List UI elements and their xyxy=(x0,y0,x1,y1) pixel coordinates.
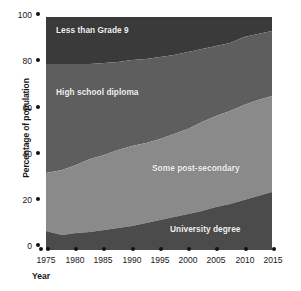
x-tick-label-2005: 2005 xyxy=(201,255,231,265)
y-tick-60: 60 xyxy=(0,102,40,113)
x-tick-dot-2015-icon xyxy=(272,247,276,251)
plot-area xyxy=(46,17,272,250)
x-tick-dot-1985-icon xyxy=(102,247,106,251)
x-axis-title: Year xyxy=(32,271,50,281)
series-label-high-school-diploma: High school diploma xyxy=(56,87,139,97)
x-tick-label-1990: 1990 xyxy=(117,255,147,265)
y-axis-title: Percentage of population xyxy=(21,53,31,203)
x-tick-dot-1995-icon xyxy=(159,247,163,251)
x-tick-dot-1975-icon xyxy=(46,247,50,251)
y-tick-40: 40 xyxy=(0,148,40,159)
series-label-some-post-secondary: Some post-secondary xyxy=(152,163,240,173)
y-tick-label: 80 xyxy=(23,56,32,66)
series-label-less-than-grade9: Less than Grade 9 xyxy=(56,25,129,35)
y-tick-dot-icon xyxy=(36,12,40,16)
y-tick-20: 20 xyxy=(0,194,40,205)
x-tick-label-1980: 1980 xyxy=(60,255,90,265)
y-tick-label: 100 xyxy=(18,10,32,20)
x-tick-label-1985: 1985 xyxy=(88,255,118,265)
x-tick-label-1975: 1975 xyxy=(31,255,61,265)
x-tick-dot-2010-icon xyxy=(244,247,248,251)
x-tick-dot-2005-icon xyxy=(215,247,219,251)
x-tick-dot-2000-icon xyxy=(187,247,191,251)
x-tick-dot-origin-icon xyxy=(39,247,43,251)
y-tick-label: 20 xyxy=(23,195,32,205)
y-tick-label: 40 xyxy=(23,149,32,159)
y-tick-label: 60 xyxy=(23,103,32,113)
x-tick-label-1995: 1995 xyxy=(145,255,175,265)
y-tick-dot-icon xyxy=(36,151,40,155)
y-tick-100: 100 xyxy=(0,9,40,20)
y-tick-dot-icon xyxy=(36,105,40,109)
x-tick-dot-1990-icon xyxy=(131,247,135,251)
stacked-area-chart: Percentage of population 100 80 60 40 20… xyxy=(0,0,301,291)
y-tick-dot-icon xyxy=(36,58,40,62)
y-tick-dot-icon xyxy=(36,197,40,201)
x-tick-label-2010: 2010 xyxy=(230,255,260,265)
series-label-university-degree: University degree xyxy=(170,224,240,234)
y-tick-label: 0 xyxy=(27,241,32,251)
y-tick-0: 0 xyxy=(0,240,40,251)
x-tick-label-2000: 2000 xyxy=(173,255,203,265)
y-tick-80: 80 xyxy=(0,55,40,66)
x-tick-label-2015: 2015 xyxy=(258,255,288,265)
x-tick-dot-1980-icon xyxy=(74,247,78,251)
